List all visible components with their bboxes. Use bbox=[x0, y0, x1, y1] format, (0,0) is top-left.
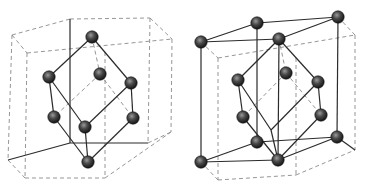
atom-sphere bbox=[272, 154, 284, 166]
bond-edge bbox=[201, 39, 279, 42]
hidden-edge bbox=[296, 150, 355, 175]
hidden-edge bbox=[12, 35, 27, 53]
atom-sphere bbox=[273, 33, 285, 45]
atom-sphere bbox=[251, 17, 263, 29]
bond-edge bbox=[88, 118, 133, 162]
bond-edge bbox=[8, 143, 70, 160]
atom-sphere bbox=[82, 156, 94, 168]
bond-edge bbox=[201, 160, 278, 162]
hidden-edge bbox=[171, 39, 172, 132]
bond-edge bbox=[201, 23, 257, 42]
atom-sphere bbox=[251, 136, 263, 148]
hidden-edge bbox=[8, 35, 12, 160]
hidden-edge bbox=[25, 53, 27, 178]
atom-sphere bbox=[280, 67, 292, 79]
atom-sphere bbox=[237, 111, 249, 123]
hidden-edge bbox=[150, 18, 172, 39]
atom-sphere bbox=[195, 156, 207, 168]
atom-sphere bbox=[48, 111, 60, 123]
crystal-structure-figure bbox=[0, 0, 365, 188]
atom-sphere bbox=[331, 131, 343, 143]
right-unit-cell-panel bbox=[195, 11, 355, 180]
atom-sphere bbox=[195, 36, 207, 48]
bond-edge bbox=[85, 83, 131, 127]
atom-sphere bbox=[312, 76, 324, 88]
atom-sphere bbox=[232, 74, 244, 86]
hidden-edge bbox=[8, 160, 25, 178]
bond-edge bbox=[337, 17, 338, 137]
hidden-edge bbox=[148, 132, 171, 143]
left-unit-cell-panel bbox=[8, 18, 172, 178]
atom-sphere bbox=[315, 109, 327, 121]
hidden-edge bbox=[12, 19, 70, 35]
atom-sphere bbox=[332, 11, 344, 23]
atom-sphere bbox=[43, 71, 55, 83]
bond-edge bbox=[201, 142, 257, 162]
hidden-edge bbox=[70, 18, 150, 19]
bond-edge bbox=[238, 39, 279, 80]
atom-sphere bbox=[127, 112, 139, 124]
hexagonal-lattice-diagram bbox=[0, 0, 365, 188]
atom-sphere bbox=[86, 31, 98, 43]
bond-edge bbox=[278, 115, 321, 160]
hidden-edge bbox=[148, 18, 150, 143]
hidden-edge bbox=[54, 74, 100, 117]
hidden-edge bbox=[105, 132, 171, 178]
atom-sphere bbox=[79, 121, 91, 133]
bond-edge bbox=[278, 39, 279, 160]
atom-sphere bbox=[125, 77, 137, 89]
hidden-edge bbox=[218, 175, 296, 180]
atom-sphere bbox=[94, 68, 106, 80]
hidden-edge bbox=[243, 73, 286, 117]
